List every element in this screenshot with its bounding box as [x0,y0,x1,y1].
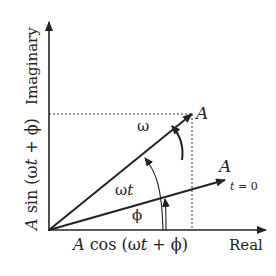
omega-label: ω [137,117,149,135]
cos-projection-label: A cos (ωt + ϕ) [71,235,188,254]
rotating-vector [49,114,192,230]
omega-t-label: ωt [115,181,134,199]
omega-rotation-arrow [172,126,183,160]
t-zero-label: t = 0 [230,180,258,193]
phi-angle-arc [165,199,166,230]
imaginary-axis-label: Imaginary [23,27,41,105]
omega-t-angle-arc [145,158,163,230]
phasor-diagram: A A t = 0 ω ωt ϕ A cos (ωt + ϕ) Real A s… [0,0,276,276]
sin-projection-label: A sin (ωt + ϕ) [22,118,41,232]
vector-label-a: A [194,103,208,123]
real-axis-label: Real [229,236,263,254]
phi-label: ϕ [132,206,142,224]
initial-vector-label-a: A [217,156,231,176]
